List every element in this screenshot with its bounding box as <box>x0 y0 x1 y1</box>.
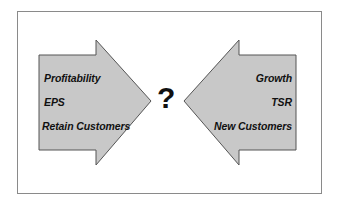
left-arrow-item-retain-customers: Retain Customers <box>42 120 130 132</box>
left-arrow-item-profitability: Profitability <box>44 72 100 84</box>
left-arrow-item-eps: EPS <box>44 96 65 108</box>
right-arrow-item-tsr: TSR <box>271 96 292 108</box>
right-arrow-item-growth: Growth <box>256 72 292 84</box>
question-mark-symbol: ? <box>157 83 175 113</box>
right-arrow-item-new-customers: New Customers <box>214 120 292 132</box>
